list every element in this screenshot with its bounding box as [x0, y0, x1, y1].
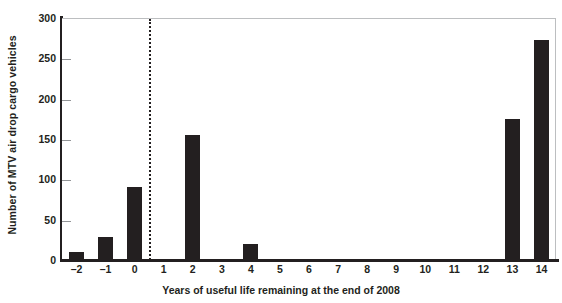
- x-axis-tick-label: 10: [419, 263, 431, 275]
- x-axis-tick-label: 3: [219, 263, 225, 275]
- x-axis-tick-label: 7: [335, 263, 341, 275]
- x-axis-tick-label: 12: [478, 263, 490, 275]
- y-axis-tick-labels: 050100150200250300: [24, 11, 60, 267]
- x-axis-tick-label: 1: [161, 263, 167, 275]
- y-axis-tick-label: 150: [38, 133, 56, 145]
- bar: [534, 40, 549, 260]
- bars-layer: [62, 18, 556, 260]
- y-axis-tick-label: 300: [38, 12, 56, 24]
- bar: [127, 187, 142, 260]
- bar: [243, 244, 258, 260]
- y-axis-tick-label: 0: [50, 254, 56, 266]
- x-axis-tick-label: 8: [364, 263, 370, 275]
- y-axis-title: Number of MTV air drop cargo vehicles: [0, 0, 24, 270]
- bar-chart-figure: Number of MTV air drop cargo vehicles 05…: [0, 0, 562, 303]
- x-axis-tick-label: 6: [306, 263, 312, 275]
- reference-line: [149, 19, 151, 260]
- bar: [185, 135, 200, 260]
- bar: [98, 237, 113, 260]
- x-axis-title: Years of useful life remaining at the en…: [0, 284, 562, 296]
- x-axis-tick-label: 11: [449, 263, 460, 275]
- y-axis-tick-label: 50: [44, 214, 56, 226]
- y-axis-tick-label: 100: [38, 173, 56, 185]
- x-axis-tick-label: 14: [536, 263, 548, 275]
- x-axis-tick-label: 0: [132, 263, 138, 275]
- x-axis-tick-label: 5: [277, 263, 283, 275]
- y-axis-tick-label: 250: [38, 52, 56, 64]
- x-axis-tick-label: 4: [248, 263, 254, 275]
- x-axis-tick-label: 13: [507, 263, 519, 275]
- bar: [505, 119, 520, 260]
- x-axis-line: [60, 259, 559, 262]
- x-axis-tick-label: 2: [190, 263, 196, 275]
- x-axis-tick-label: 9: [393, 263, 399, 275]
- x-axis-tick-label: –1: [100, 263, 112, 275]
- x-axis-tick-labels: –2–101234567891011121314: [62, 263, 556, 279]
- y-axis-tick-label: 200: [38, 93, 56, 105]
- y-axis-title-text: Number of MTV air drop cargo vehicles: [6, 35, 18, 234]
- x-axis-tick-label: –2: [71, 263, 83, 275]
